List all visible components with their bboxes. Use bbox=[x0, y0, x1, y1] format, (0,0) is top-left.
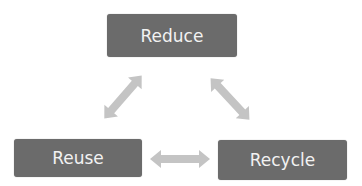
node-reduce: Reduce bbox=[107, 14, 237, 57]
node-reuse-label: Reuse bbox=[52, 148, 104, 168]
reduce-recycle-arrow-icon bbox=[204, 72, 256, 126]
node-reuse: Reuse bbox=[14, 139, 142, 177]
reuse-recycle-arrow-icon bbox=[150, 150, 210, 168]
node-recycle-label: Recycle bbox=[250, 150, 315, 170]
node-reduce-label: Reduce bbox=[141, 26, 204, 46]
reduce-reuse-arrow-icon bbox=[98, 70, 149, 125]
node-recycle: Recycle bbox=[218, 140, 347, 180]
